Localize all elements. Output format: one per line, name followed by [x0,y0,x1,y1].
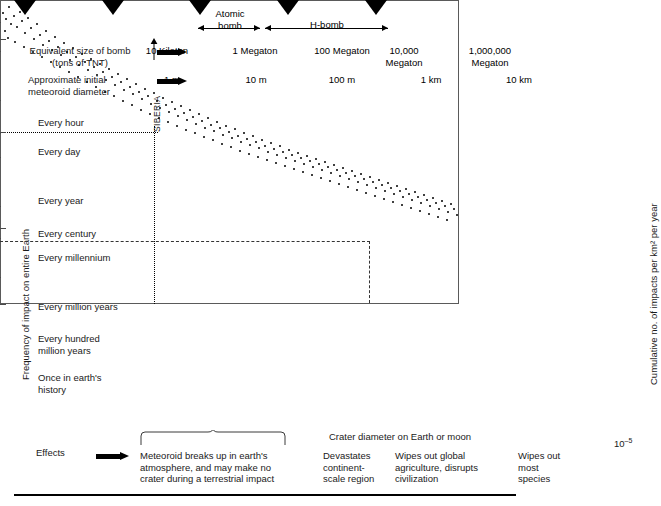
effect-species-text: Wipes out most species [518,450,608,485]
effects-brace-icon [140,430,288,446]
effects-row-label: Effects [36,447,65,459]
scatter-plot-area: SIBERIA [0,0,459,304]
y-axis-right-title: Cumulative no. of impacts per km² per ye… [648,203,659,385]
effect-breakup-text: Meteoroid breaks up in earth's atmospher… [140,450,330,485]
y-axis-right-tick-label: 10–5 [614,438,632,449]
x-axis-title: Crater diameter on Earth or moon [300,431,500,443]
effect-agriculture-text: Wipes out global agriculture, disrupts c… [395,450,535,485]
effects-row-arrow [96,452,130,461]
bottom-rule-divider [14,494,516,496]
